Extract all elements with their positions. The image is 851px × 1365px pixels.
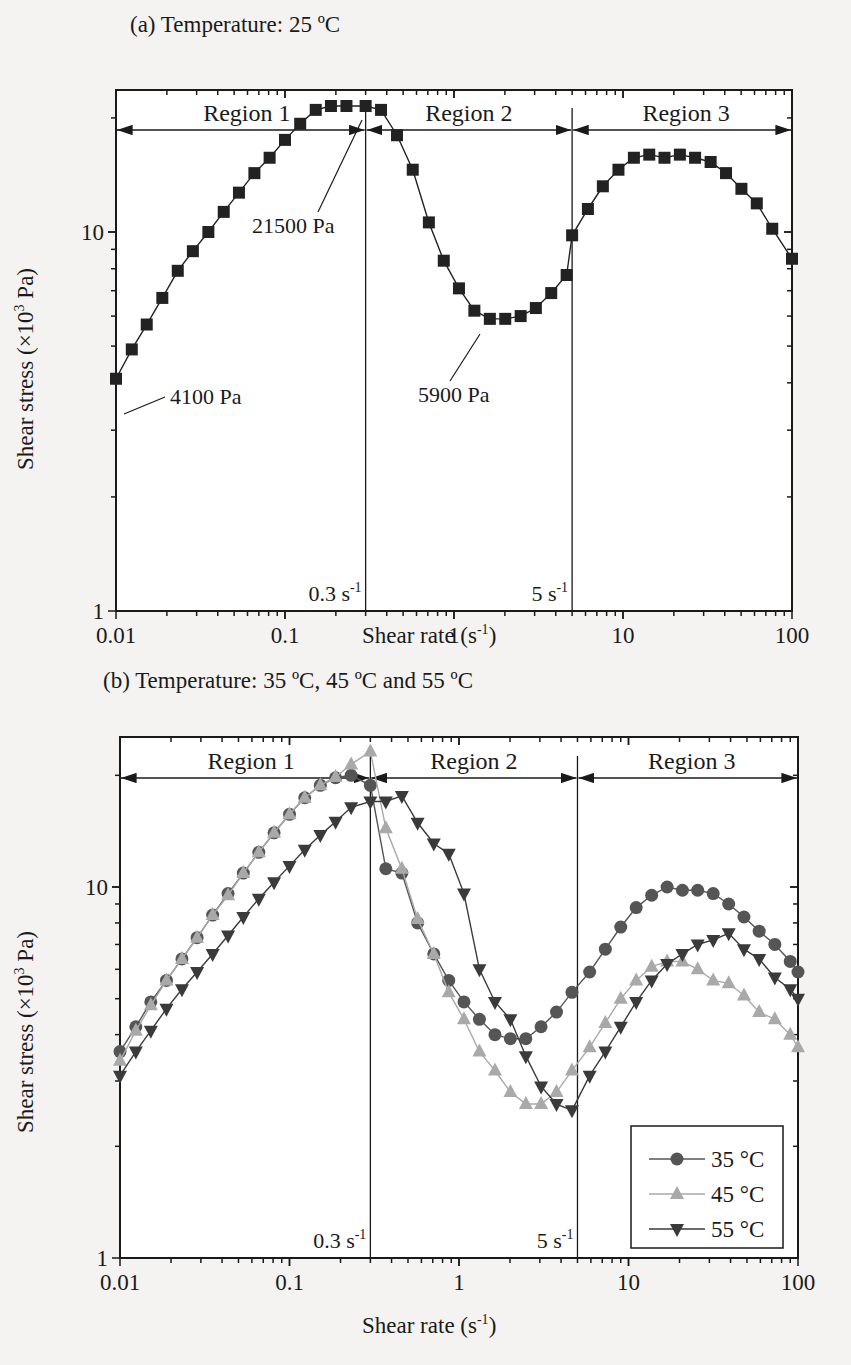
chart-b-x-axis-label: Shear rate (s-1) <box>362 1312 496 1339</box>
data-point <box>768 938 781 951</box>
data-point <box>671 1153 684 1166</box>
chart-b-plot: 0.010.1110100101Region 1Region 2Region 3… <box>0 0 851 1365</box>
data-point <box>691 884 704 897</box>
data-point <box>614 921 627 934</box>
data-point <box>676 884 689 897</box>
data-point <box>519 1032 532 1045</box>
data-point <box>565 986 578 999</box>
x-tick-label: 100 <box>781 1270 816 1295</box>
data-point <box>661 881 674 894</box>
chart-b-y-axis-label: Shear stress (×103 Pa) <box>12 931 39 1133</box>
x-tick-label: 10 <box>617 1270 640 1295</box>
data-point <box>504 1032 517 1045</box>
y-tick-label: 1 <box>97 1246 109 1271</box>
data-point <box>379 862 392 875</box>
x-tick-label: 1 <box>453 1270 465 1295</box>
legend-label: 55 °C <box>711 1217 764 1242</box>
x-tick-label: 0.1 <box>275 1270 304 1295</box>
region-1-label: Region 1 <box>208 748 295 774</box>
data-point <box>753 925 766 938</box>
data-point <box>535 1020 548 1033</box>
data-point <box>792 966 805 979</box>
chart-panel-b: (b) Temperature: 35 ºC, 45 ºC and 55 ºC … <box>0 0 851 1365</box>
data-point <box>737 911 750 924</box>
data-point <box>457 995 470 1008</box>
data-point <box>645 889 658 902</box>
data-point <box>488 1028 501 1041</box>
data-point <box>630 901 643 914</box>
data-point <box>707 887 720 900</box>
data-point <box>473 1013 486 1026</box>
data-point <box>345 769 358 782</box>
data-point <box>722 897 735 910</box>
data-point <box>784 955 797 968</box>
y-tick-label: 10 <box>85 875 108 900</box>
region-2-label: Region 2 <box>430 748 517 774</box>
legend-label: 45 °C <box>711 1182 764 1207</box>
data-point <box>583 966 596 979</box>
region-3-label: Region 3 <box>648 748 735 774</box>
x-tick-label: 0.01 <box>100 1270 140 1295</box>
data-point <box>550 1006 563 1019</box>
data-point <box>364 779 377 792</box>
data-point <box>599 943 612 956</box>
legend-label: 35 °C <box>711 1147 764 1172</box>
